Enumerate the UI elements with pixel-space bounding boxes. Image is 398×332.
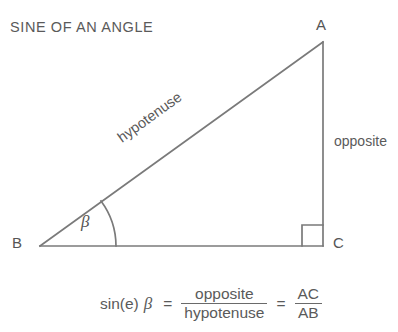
formula-equals-first: = <box>156 295 179 313</box>
diagram-page: SINE OF AN ANGLE A B C hypotenuse opposi… <box>0 0 398 332</box>
vertex-label-c: C <box>333 234 344 251</box>
formula-denominator-ab: AB <box>295 303 322 321</box>
formula-fraction-letters: AC AB <box>295 286 323 322</box>
angle-beta-arc <box>101 201 116 246</box>
formula-numerator-opposite: opposite <box>192 286 257 303</box>
angle-label-beta: β <box>81 212 89 232</box>
formula-angle: β <box>142 294 156 314</box>
vertex-label-a: A <box>316 16 326 33</box>
formula-numerator-ac: AC <box>295 286 323 303</box>
formula-equals-second: = <box>269 295 292 313</box>
formula-function: sin(e) <box>97 295 142 313</box>
right-angle-marker-icon <box>302 225 323 246</box>
vertex-label-b: B <box>12 234 22 251</box>
sine-formula: sin(e) β = opposite hypotenuse = AC AB <box>97 286 324 322</box>
side-label-opposite: opposite <box>334 133 387 149</box>
triangle-figure <box>0 0 398 332</box>
formula-fraction-words: opposite hypotenuse <box>181 286 267 322</box>
formula-denominator-hypotenuse: hypotenuse <box>181 303 267 321</box>
